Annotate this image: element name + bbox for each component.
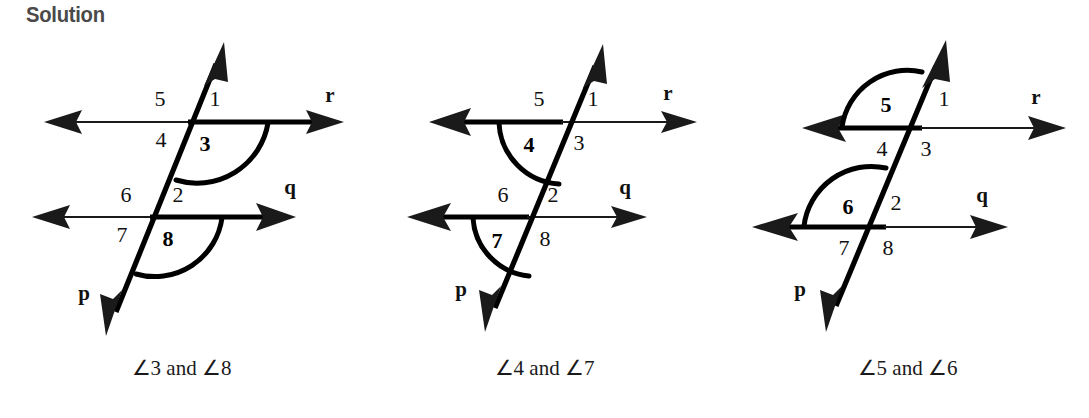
figure-1-diagram: 5 1 4 3 6 2 7 8 r q p (0, 24, 363, 354)
line-label-p: p (794, 277, 806, 301)
angle-label-7: 7 (117, 222, 128, 247)
angle-label-6: 6 (498, 182, 509, 207)
angle-label-3: 3 (921, 136, 932, 161)
line-label-q: q (619, 175, 631, 199)
angle-label-6: 6 (121, 182, 132, 207)
angle-label-5: 5 (155, 86, 166, 111)
angle-label-8: 8 (163, 226, 174, 251)
angle-label-5: 5 (881, 92, 892, 117)
line-p (820, 40, 950, 332)
angle-label-3: 3 (200, 131, 211, 156)
figure-2-diagram: 5 1 4 3 6 2 7 8 r q p (363, 24, 726, 354)
angle-label-1: 1 (588, 86, 599, 111)
angle-label-2: 2 (891, 190, 902, 215)
angle-label-2: 2 (173, 182, 184, 207)
figure-1-caption: ∠3 and ∠8 (0, 356, 363, 381)
angle-label-1: 1 (939, 86, 950, 111)
line-q (752, 213, 1008, 241)
figure-3-diagram: 5 1 4 3 6 2 7 8 r q p (726, 24, 1089, 354)
figure-row: 5 1 4 3 6 2 7 8 r q p ∠3 and ∠8 (0, 24, 1089, 418)
angle-label-4: 4 (156, 127, 167, 152)
figure-3: 5 1 4 3 6 2 7 8 r q p ∠5 and ∠6 (726, 24, 1089, 418)
angle-label-5: 5 (534, 86, 545, 111)
angle-label-1: 1 (210, 86, 221, 111)
angle-label-6: 6 (843, 194, 854, 219)
angle-label-8: 8 (540, 226, 551, 251)
angle-label-4: 4 (877, 136, 888, 161)
line-label-r: r (325, 83, 334, 107)
line-label-q: q (976, 183, 988, 207)
angle-label-7: 7 (492, 228, 503, 253)
figure-3-caption: ∠5 and ∠6 (726, 356, 1089, 381)
angle-label-4: 4 (524, 132, 535, 157)
figure-2-caption: ∠4 and ∠7 (363, 356, 726, 381)
angle-label-3: 3 (574, 130, 585, 155)
line-label-q: q (284, 175, 296, 199)
line-r (429, 108, 697, 136)
line-label-p: p (455, 277, 467, 301)
angle-label-2: 2 (548, 182, 559, 207)
figure-2: 5 1 4 3 6 2 7 8 r q p ∠4 and ∠7 (363, 24, 726, 418)
line-label-r: r (663, 81, 672, 105)
line-label-r: r (1031, 85, 1040, 109)
angle-label-7: 7 (839, 235, 850, 260)
angle-label-8: 8 (883, 235, 894, 260)
figure-1: 5 1 4 3 6 2 7 8 r q p ∠3 and ∠8 (0, 24, 363, 418)
line-label-p: p (78, 281, 90, 305)
